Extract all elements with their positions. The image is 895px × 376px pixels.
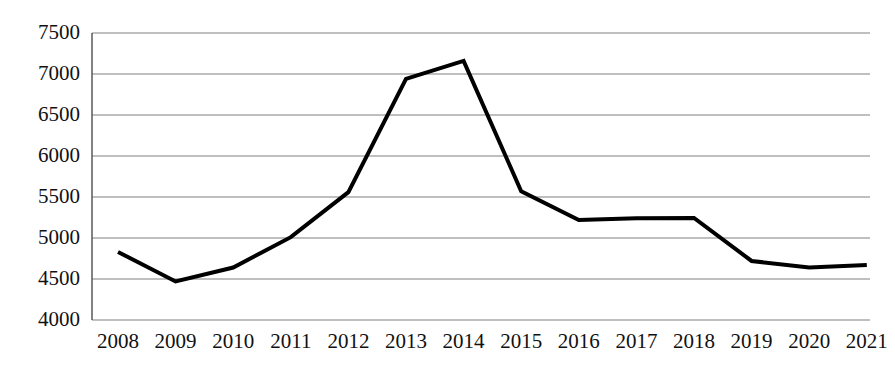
x-axis-tick-label: 2011 bbox=[261, 331, 321, 352]
x-axis-tick-label: 2019 bbox=[722, 331, 782, 352]
y-axis-tick-label: 6500 bbox=[12, 104, 80, 125]
data-series-line bbox=[118, 61, 867, 282]
x-axis-tick-label: 2013 bbox=[376, 331, 436, 352]
gridlines bbox=[92, 33, 870, 320]
line-chart: 40004500500055006000650070007500 2008200… bbox=[0, 0, 895, 376]
y-axis-tick-label: 5500 bbox=[12, 186, 80, 207]
y-axis-tick-label: 5000 bbox=[12, 227, 80, 248]
x-axis-tick-label: 2014 bbox=[434, 331, 494, 352]
x-axis-tick-label: 2016 bbox=[549, 331, 609, 352]
x-axis-tick-label: 2018 bbox=[664, 331, 724, 352]
x-axis-tick-label: 2010 bbox=[203, 331, 263, 352]
y-axis-tick-label: 7000 bbox=[12, 63, 80, 84]
y-axis-tick-label: 4000 bbox=[12, 309, 80, 330]
y-axis-tick-label: 6000 bbox=[12, 145, 80, 166]
x-axis-tick-label: 2009 bbox=[146, 331, 206, 352]
chart-plot-area bbox=[0, 0, 895, 376]
x-axis-tick-label: 2020 bbox=[779, 331, 839, 352]
x-axis-tick-label: 2015 bbox=[491, 331, 551, 352]
x-axis-tick-label: 2008 bbox=[88, 331, 148, 352]
y-axis-tick-label: 4500 bbox=[12, 268, 80, 289]
x-axis-tick-label: 2017 bbox=[606, 331, 666, 352]
y-axis-tick-label: 7500 bbox=[12, 22, 80, 43]
x-axis-tick-label: 2021 bbox=[837, 331, 895, 352]
x-axis-tick-label: 2012 bbox=[318, 331, 378, 352]
